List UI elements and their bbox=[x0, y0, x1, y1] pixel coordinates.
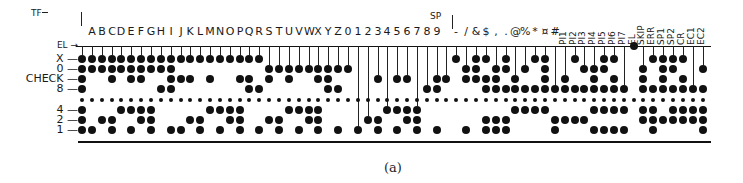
punched-hole-4 bbox=[314, 106, 322, 114]
punched-hole-0 bbox=[324, 65, 332, 73]
punched-hole-4 bbox=[127, 106, 135, 114]
feed-hole bbox=[592, 98, 596, 102]
column-guide-line bbox=[525, 46, 526, 65]
punched-hole-2 bbox=[374, 116, 382, 124]
feed-hole bbox=[573, 98, 577, 102]
punched-hole-0 bbox=[521, 65, 529, 73]
punched-hole-x bbox=[167, 55, 175, 63]
punched-hole-x bbox=[472, 55, 480, 63]
feed-hole bbox=[346, 98, 350, 102]
column-guide-line bbox=[259, 46, 260, 55]
sp-arrow-stem bbox=[452, 15, 453, 29]
punched-hole-check bbox=[177, 75, 185, 83]
punched-hole-x bbox=[669, 55, 677, 63]
column-guide-line bbox=[643, 46, 644, 65]
punched-hole-x bbox=[78, 55, 86, 63]
column-label: O bbox=[225, 26, 235, 37]
punched-hole-1 bbox=[551, 126, 559, 134]
punched-hole-check bbox=[285, 75, 293, 83]
figure-caption: (a) bbox=[384, 160, 402, 175]
punched-hole-check bbox=[374, 75, 382, 83]
column-label: EC2 bbox=[696, 27, 707, 45]
punched-hole-4 bbox=[610, 106, 618, 114]
feed-hole bbox=[80, 98, 84, 102]
punched-hole-0 bbox=[600, 65, 608, 73]
column-label: / bbox=[461, 26, 471, 37]
punched-hole-2 bbox=[551, 116, 559, 124]
punched-hole-0 bbox=[167, 65, 175, 73]
punched-hole-4 bbox=[117, 106, 125, 114]
column-guide-line bbox=[653, 46, 654, 55]
punched-hole-0 bbox=[502, 65, 510, 73]
punched-hole-x bbox=[157, 55, 165, 63]
column-label: & bbox=[471, 26, 481, 37]
punched-hole-x bbox=[226, 55, 234, 63]
punched-hole-1 bbox=[275, 126, 283, 134]
sp-marker: SP bbox=[430, 11, 441, 22]
punched-hole-2 bbox=[265, 116, 273, 124]
punched-hole-4 bbox=[137, 106, 145, 114]
punched-hole-check bbox=[511, 75, 519, 83]
feed-hole bbox=[504, 98, 508, 102]
punched-hole-check bbox=[590, 75, 598, 83]
feed-hole bbox=[494, 98, 498, 102]
punched-hole-8 bbox=[561, 85, 569, 93]
column-label: T bbox=[274, 26, 284, 37]
punched-hole-x bbox=[659, 55, 667, 63]
column-label: N bbox=[215, 26, 225, 37]
punched-hole-4 bbox=[147, 106, 155, 114]
punched-hole-8 bbox=[433, 85, 441, 93]
feed-hole bbox=[376, 98, 380, 102]
punched-hole-1 bbox=[590, 126, 598, 134]
column-label: 2 bbox=[363, 26, 373, 37]
column-guide-line bbox=[535, 46, 536, 55]
punched-hole-8 bbox=[521, 85, 529, 93]
feed-hole bbox=[356, 98, 360, 102]
feed-hole bbox=[110, 98, 114, 102]
punched-hole-4 bbox=[305, 106, 313, 114]
punched-hole-1 bbox=[88, 126, 96, 134]
feed-hole bbox=[179, 98, 183, 102]
punched-hole-1 bbox=[127, 126, 135, 134]
column-guide-line bbox=[486, 46, 487, 55]
row-label-el: EL → bbox=[57, 40, 78, 51]
column-guide-line bbox=[279, 46, 280, 65]
punched-hole-0 bbox=[88, 65, 96, 73]
feed-hole bbox=[238, 98, 242, 102]
column-guide-line bbox=[348, 46, 349, 65]
punched-hole-check bbox=[236, 75, 244, 83]
punched-hole-2 bbox=[78, 116, 86, 124]
feed-hole bbox=[513, 98, 517, 102]
punched-hole-1 bbox=[295, 126, 303, 134]
column-guide-line bbox=[121, 46, 122, 55]
feed-hole bbox=[474, 98, 478, 102]
punched-hole-8 bbox=[482, 85, 490, 93]
punched-hole-2 bbox=[98, 116, 106, 124]
punched-hole-2 bbox=[226, 116, 234, 124]
column-label: U bbox=[284, 26, 294, 37]
column-guide-line bbox=[515, 46, 516, 75]
column-label: 5 bbox=[392, 26, 402, 37]
punched-hole-4 bbox=[521, 106, 529, 114]
column-guide-line bbox=[92, 46, 93, 55]
feed-hole bbox=[701, 98, 705, 102]
feed-hole bbox=[622, 98, 626, 102]
punched-hole-1 bbox=[649, 126, 657, 134]
column-guide-line bbox=[112, 46, 113, 55]
punched-hole-check bbox=[137, 75, 145, 83]
punched-hole-2 bbox=[679, 116, 687, 124]
punched-hole-check bbox=[639, 75, 647, 83]
punched-hole-0 bbox=[108, 65, 116, 73]
punched-hole-0 bbox=[314, 65, 322, 73]
punched-hole-4 bbox=[669, 106, 677, 114]
column-guide-line bbox=[693, 46, 694, 85]
punched-hole-check bbox=[265, 75, 273, 83]
punched-hole-8 bbox=[78, 85, 86, 93]
feed-hole bbox=[307, 98, 311, 102]
column-label: 8 bbox=[422, 26, 432, 37]
feed-hole bbox=[681, 98, 685, 102]
punched-hole-x bbox=[137, 55, 145, 63]
feed-hole bbox=[464, 98, 468, 102]
column-label: X bbox=[313, 26, 323, 37]
column-label: % bbox=[520, 26, 530, 37]
